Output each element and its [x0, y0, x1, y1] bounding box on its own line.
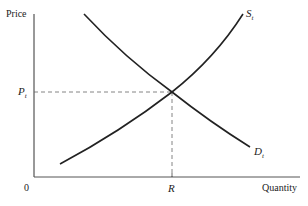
equilibrium-price-label-sub: t	[25, 92, 27, 100]
x-axis-label: Quantity	[262, 183, 297, 193]
supply-curve-label: St	[246, 8, 253, 19]
origin-label: 0	[24, 183, 29, 193]
demand-curve-label: Dt	[254, 146, 264, 157]
supply-label-main: S	[246, 7, 252, 19]
y-axis-label: Price	[6, 9, 27, 19]
demand-curve	[84, 14, 250, 147]
equilibrium-quantity-label: R	[168, 183, 175, 194]
equilibrium-price-label-main: P	[18, 85, 25, 97]
demand-label-sub: t	[262, 152, 264, 160]
supply-curve	[60, 14, 243, 164]
supply-demand-plot	[0, 0, 308, 206]
demand-label-main: D	[254, 145, 262, 157]
equilibrium-price-label: Pt	[18, 86, 27, 97]
